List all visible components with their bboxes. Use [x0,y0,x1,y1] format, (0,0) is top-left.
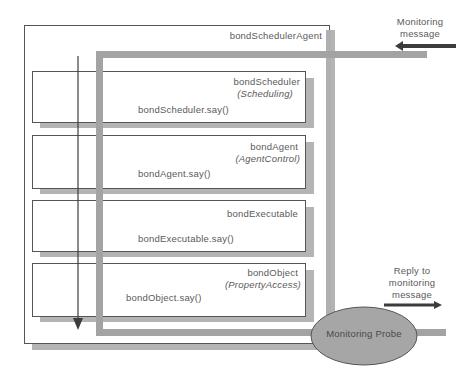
agent-bottom-shadow [32,344,335,350]
layer-role-object: (PropertyAccess) [150,279,301,290]
agent-label: bondSchedulerAgent [190,30,322,41]
monitoring-message-label: Monitoring message [380,16,460,40]
layer-name-object: bondObject [150,267,298,278]
reply-line2: monitoring [372,277,452,289]
layer-name-agent: bondAgent [150,141,298,152]
reply-label: Reply to monitoring message [372,265,452,301]
layer-call-agent: bondAgent.say() [138,168,211,179]
layer-call-executable: bondExecutable.say() [138,233,234,244]
monitoring-path-left-overlay [96,51,103,336]
monitoring-message-line2: message [380,28,460,40]
layer-role-scheduler: (Scheduling) [150,88,293,99]
layer-role-agent: (AgentControl) [150,153,300,164]
monitoring-path-right [326,30,331,330]
layer-call-scheduler: bondScheduler.say() [138,104,229,115]
monitoring-probe-label: Monitoring Probe [309,328,419,339]
layer-name-executable: bondExecutable [150,208,298,219]
monitoring-message-line1: Monitoring [380,16,460,28]
reply-line1: Reply to [372,265,452,277]
layer-name-scheduler: bondScheduler [150,76,300,87]
call-flow-arrow-icon [70,56,86,332]
incoming-message-arrow-icon [395,40,457,52]
monitoring-path-top-overlay [96,51,427,58]
layer-call-object: bondObject.say() [126,292,202,303]
